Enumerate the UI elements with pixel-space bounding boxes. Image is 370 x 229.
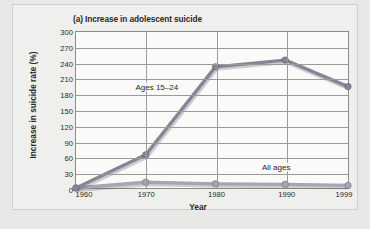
y-gridline xyxy=(76,158,348,159)
chart-figure: (a) Increase in adolescent suicide Incre… xyxy=(12,4,358,210)
y-axis-tick-label: 90 xyxy=(65,138,73,147)
x-gridline xyxy=(146,32,147,188)
x-axis-tick-label: 1970 xyxy=(138,190,155,199)
y-axis-label: Increase in suicide rate (%) xyxy=(28,25,38,185)
y-axis-tick-label: 180 xyxy=(60,91,73,100)
y-gridline xyxy=(76,64,348,65)
y-axis-tick-label: 240 xyxy=(60,59,73,68)
y-axis-tick-label: 30 xyxy=(65,170,73,179)
series-annotation: All ages xyxy=(260,163,292,172)
data-point-marker xyxy=(212,181,219,188)
x-axis-label: Year xyxy=(68,202,328,212)
y-axis-tick-label: 210 xyxy=(60,75,73,84)
y-gridline xyxy=(76,48,348,49)
y-gridline xyxy=(76,95,348,96)
y-axis-tick-label: 0 xyxy=(69,186,73,195)
y-gridline xyxy=(76,79,348,80)
data-point-marker xyxy=(345,83,352,90)
chart-title: (a) Increase in adolescent suicide xyxy=(73,14,202,24)
x-gridline xyxy=(217,32,218,188)
x-axis-tick-label: 1980 xyxy=(208,190,225,199)
chart-canvas xyxy=(76,32,348,188)
y-axis-tick-label: 120 xyxy=(60,122,73,131)
y-axis-tick-label: 270 xyxy=(60,43,73,52)
x-axis-tick-label: 1960 xyxy=(76,190,93,199)
y-axis-tick-label: 300 xyxy=(60,28,73,37)
y-gridline xyxy=(76,111,348,112)
y-gridline xyxy=(76,143,348,144)
series-line-shadow xyxy=(77,62,349,190)
x-axis-tick-label: 1999 xyxy=(336,190,353,199)
x-axis-tick-label: 1990 xyxy=(278,190,295,199)
data-point-marker xyxy=(345,182,352,189)
y-gridline xyxy=(76,127,348,128)
y-axis-tick-label: 60 xyxy=(65,154,73,163)
plot-area: 0306090120150180210240270300196019701980… xyxy=(75,31,349,189)
y-gridline xyxy=(76,174,348,175)
series-annotation: Ages 15–24 xyxy=(133,82,180,91)
y-axis-tick-label: 150 xyxy=(60,107,73,116)
